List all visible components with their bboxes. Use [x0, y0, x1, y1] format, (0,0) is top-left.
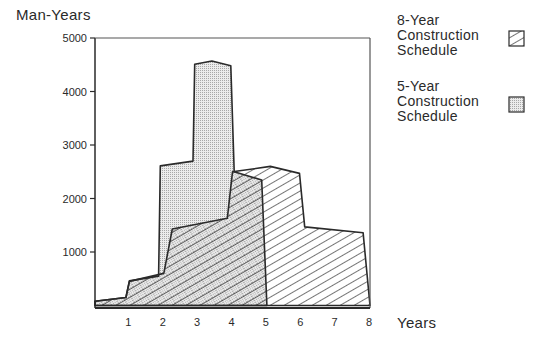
legend-entry-5-year: 5-Year Construction Schedule [397, 79, 479, 124]
x-tick-label: 8 [366, 316, 372, 328]
x-tick-label: 4 [228, 316, 234, 328]
y-tick-label: 2000 [63, 193, 87, 205]
y-tick-label: 1000 [63, 246, 87, 258]
y-tick-label: 5000 [63, 32, 87, 44]
legend-hatch-icon [509, 31, 524, 46]
x-tick-label: 5 [263, 316, 269, 328]
legend-line: Schedule [397, 43, 479, 58]
legend-dotted-icon [509, 97, 524, 112]
legend-line: 5-Year [397, 79, 479, 94]
x-tick-label: 6 [297, 316, 303, 328]
x-axis-title: Years [397, 314, 436, 331]
x-tick-label: 7 [332, 316, 338, 328]
plot-area [95, 61, 370, 306]
legend-line: 8-Year [397, 13, 479, 28]
legend-entry-8-year: 8-Year Construction Schedule [397, 13, 479, 58]
legend-line: Construction [397, 94, 479, 109]
x-tick-label: 1 [125, 316, 131, 328]
legend-icons [509, 31, 524, 112]
legend-line: Schedule [397, 109, 479, 124]
y-tick-label: 4000 [63, 86, 87, 98]
x-tick-label: 2 [160, 316, 166, 328]
y-tick-label: 3000 [63, 139, 87, 151]
legend-line: Construction [397, 28, 479, 43]
x-tick-label: 3 [194, 316, 200, 328]
